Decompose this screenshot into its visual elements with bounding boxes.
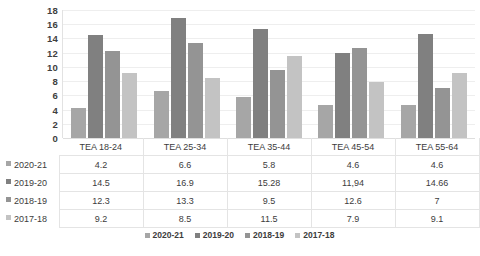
bar[interactable] (369, 82, 384, 138)
chart-legend: 2020-212019-202018-192017-18 (0, 230, 479, 240)
bar[interactable] (418, 34, 433, 138)
bar[interactable] (88, 35, 103, 138)
bar[interactable] (122, 73, 137, 138)
legend-item[interactable]: 2020-21 (145, 230, 184, 240)
y-axis-tick: 14 (28, 33, 58, 44)
legend-label: 2017-18 (303, 230, 334, 240)
table-column-header: TEA 25-34 (143, 138, 227, 156)
legend-item[interactable]: 2018-19 (245, 230, 284, 240)
table-cell: 5.8 (227, 156, 311, 174)
bar[interactable] (171, 18, 186, 138)
plot-area: 181614121086420 (0, 10, 479, 150)
table-cell: 9.5 (227, 192, 311, 210)
y-axis: 181614121086420 (28, 10, 58, 138)
table-row-header: 2018-19 (0, 192, 59, 210)
bar-group (228, 10, 310, 138)
bar[interactable] (236, 97, 251, 138)
bar[interactable] (253, 29, 268, 138)
bar-group (393, 10, 475, 138)
table-cell: 4.2 (59, 156, 143, 174)
bar-group (145, 10, 227, 138)
data-table-wrap: TEA 18-24TEA 25-34TEA 35-44TEA 45-54TEA … (0, 138, 479, 228)
table-row-header: 2019-20 (0, 174, 59, 192)
legend-item[interactable]: 2019-20 (195, 230, 234, 240)
table-row-label: 2018-19 (14, 196, 47, 206)
bar[interactable] (71, 108, 86, 138)
table-row: 2019-2014.516.915.2811,9414.66 (0, 174, 479, 192)
bar[interactable] (435, 88, 450, 138)
bar[interactable] (154, 91, 169, 138)
bar[interactable] (335, 53, 350, 138)
table-cell: 12.3 (59, 192, 143, 210)
bar[interactable] (188, 43, 203, 138)
y-axis-tick: 2 (28, 118, 58, 129)
bar[interactable] (270, 70, 285, 138)
plot-canvas (62, 10, 475, 138)
table-cell: 11,94 (311, 174, 395, 192)
legend-label: 2019-20 (203, 230, 234, 240)
table-cell: 7 (395, 192, 479, 210)
table-cell: 8.5 (143, 210, 227, 228)
y-axis-tick: 12 (28, 47, 58, 58)
table-cell: 7.9 (311, 210, 395, 228)
table-cell: 4.6 (395, 156, 479, 174)
bar[interactable] (287, 56, 302, 138)
legend-color-swatch-icon (245, 233, 250, 238)
table-cell: 4.6 (311, 156, 395, 174)
table-cell: 15.28 (227, 174, 311, 192)
table-row: 2020-214.26.65.84.64.6 (0, 156, 479, 174)
series-color-swatch-icon (6, 215, 11, 220)
table-row-label: 2020-21 (14, 160, 47, 170)
table-row-header: 2017-18 (0, 210, 59, 228)
bar[interactable] (452, 73, 467, 138)
table-cell: 11.5 (227, 210, 311, 228)
chart-title-fragment (0, 0, 479, 3)
table-row: 2017-189.28.511.57.99.1 (0, 210, 479, 228)
table-row-label: 2017-18 (14, 214, 47, 224)
bar-groups (63, 10, 475, 138)
series-color-swatch-icon (6, 197, 11, 202)
table-cell: 14.66 (395, 174, 479, 192)
table-row-label: 2019-20 (14, 178, 47, 188)
bar[interactable] (352, 48, 367, 138)
legend-color-swatch-icon (145, 233, 150, 238)
bar-group (310, 10, 392, 138)
table-row: 2018-1912.313.39.512.67 (0, 192, 479, 210)
table-column-header: TEA 55-64 (395, 138, 479, 156)
table-cell: 9.1 (395, 210, 479, 228)
table-cell: 16.9 (143, 174, 227, 192)
table-cell: 13.3 (143, 192, 227, 210)
bar[interactable] (205, 78, 220, 138)
table-column-header: TEA 35-44 (227, 138, 311, 156)
bar[interactable] (105, 51, 120, 138)
series-color-swatch-icon (6, 179, 11, 184)
data-table: TEA 18-24TEA 25-34TEA 35-44TEA 45-54TEA … (0, 138, 480, 228)
table-corner-cell (0, 138, 59, 156)
legend-label: 2018-19 (253, 230, 284, 240)
legend-color-swatch-icon (195, 233, 200, 238)
table-column-header: TEA 18-24 (59, 138, 143, 156)
table-column-header: TEA 45-54 (311, 138, 395, 156)
table-cell: 9.2 (59, 210, 143, 228)
table-row-header: 2020-21 (0, 156, 59, 174)
legend-label: 2020-21 (153, 230, 184, 240)
table-cell: 6.6 (143, 156, 227, 174)
bar[interactable] (401, 105, 416, 138)
y-axis-tick: 16 (28, 19, 58, 30)
y-axis-tick: 8 (28, 76, 58, 87)
legend-color-swatch-icon (295, 233, 300, 238)
table-header-row: TEA 18-24TEA 25-34TEA 35-44TEA 45-54TEA … (0, 138, 479, 156)
y-axis-tick: 18 (28, 5, 58, 16)
table-cell: 12.6 (311, 192, 395, 210)
y-axis-tick: 6 (28, 90, 58, 101)
bar[interactable] (318, 105, 333, 138)
series-color-swatch-icon (6, 161, 11, 166)
bar-group (63, 10, 145, 138)
table-cell: 14.5 (59, 174, 143, 192)
y-axis-tick: 4 (28, 104, 58, 115)
y-axis-tick: 10 (28, 61, 58, 72)
legend-item[interactable]: 2017-18 (295, 230, 334, 240)
